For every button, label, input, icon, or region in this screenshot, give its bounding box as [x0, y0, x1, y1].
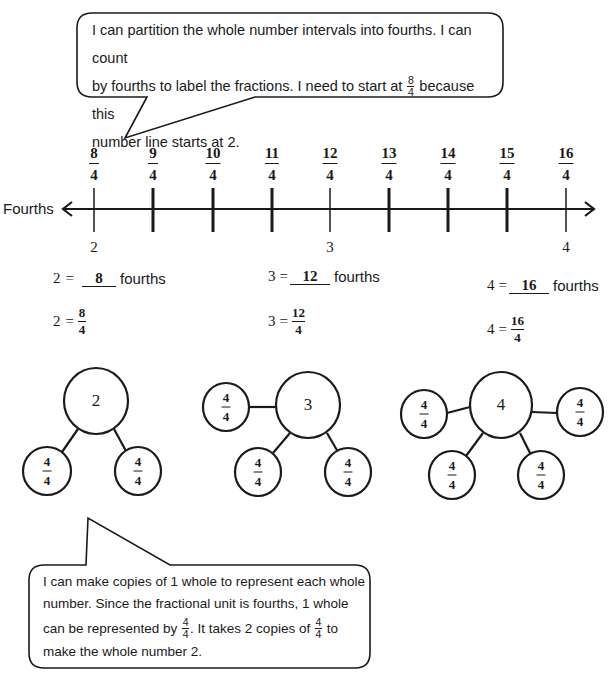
fraction: 164	[511, 314, 524, 345]
equation-3-fourths: 3= 12 fourths	[268, 268, 380, 285]
bond-part: 44	[576, 396, 585, 429]
bottom-bubble-line-3: can be represented by 44. It takes 2 cop…	[43, 618, 368, 641]
tick-label-14-4: 144	[441, 145, 456, 183]
top-bubble-line-1: I can partition the whole number interva…	[92, 16, 497, 72]
tick-label-10-4: 104	[206, 145, 221, 183]
tick-label-8-4: 84	[89, 145, 99, 183]
equation-4-fraction: 4= 164	[487, 314, 524, 345]
bond-part: 44	[134, 455, 143, 488]
answer-blank: 16	[509, 277, 549, 294]
equation-2-fourths: 2= 8 fourths	[53, 270, 166, 287]
bond-part: 44	[43, 455, 52, 488]
inline-fraction: 44	[315, 617, 322, 640]
top-bubble-line-2: by fourths to label the fractions. I nee…	[92, 72, 497, 128]
tick-label-15-4: 154	[500, 145, 515, 183]
number-line-label: Fourths	[3, 200, 54, 217]
tick-label-13-4: 134	[382, 145, 397, 183]
equation-3-fraction: 3= 124	[268, 306, 305, 337]
bond-part: 44	[537, 459, 546, 492]
bottom-bubble-line-2: number. Since the fractional unit is fou…	[43, 593, 368, 615]
whole-label-4: 4	[562, 239, 570, 256]
bottom-bubble-text: I can make copies of 1 whole to represen…	[43, 571, 368, 663]
number-line	[63, 188, 594, 232]
fraction: 124	[292, 306, 305, 337]
bottom-bubble-line-1: I can make copies of 1 whole to represen…	[43, 571, 368, 593]
bond-part: 44	[448, 459, 457, 492]
bond-part: 44	[222, 391, 231, 424]
bond-part: 44	[420, 398, 429, 431]
bottom-bubble-line-4: make the whole number 2.	[43, 641, 368, 663]
answer-blank: 8	[82, 270, 116, 287]
equation-2-fraction: 2= 84	[53, 306, 86, 337]
tick-label-12-4: 124	[323, 145, 338, 183]
tick-label-11-4: 114	[265, 145, 279, 183]
bond-whole-4: 4	[497, 395, 506, 415]
inline-fraction: 44	[182, 617, 189, 640]
fraction: 84	[78, 306, 86, 337]
number-bond-4	[401, 372, 603, 499]
answer-blank: 12	[290, 268, 330, 285]
whole-label-2: 2	[90, 239, 98, 256]
top-bubble-text: I can partition the whole number interva…	[92, 16, 497, 156]
bond-part: 44	[344, 456, 353, 489]
whole-label-3: 3	[326, 239, 334, 256]
tick-label-16-4: 164	[559, 145, 574, 183]
bond-whole-3: 3	[304, 395, 313, 415]
bond-whole-2: 2	[92, 391, 101, 411]
equation-4-fourths: 4= 16 fourths	[487, 277, 599, 294]
bond-part: 44	[254, 456, 263, 489]
tick-label-9-4: 94	[148, 145, 158, 183]
inline-fraction: 84	[407, 75, 414, 98]
